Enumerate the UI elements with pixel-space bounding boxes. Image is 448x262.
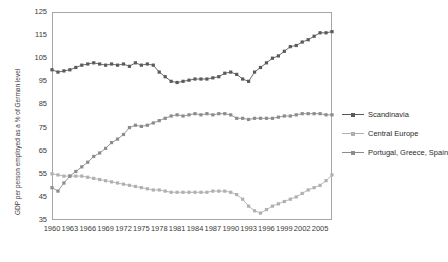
legend-swatch-icon bbox=[342, 148, 364, 157]
legend-swatch-icon bbox=[342, 129, 364, 138]
series-2 bbox=[50, 172, 333, 214]
chart-legend: ScandinaviaCentral EuropePortugal, Greec… bbox=[342, 110, 448, 167]
legend-item: Portugal, Greece, Spain bbox=[342, 148, 448, 157]
legend-label: Central Europe bbox=[368, 129, 418, 138]
legend-label: Scandinavia bbox=[368, 110, 409, 119]
legend-swatch-icon bbox=[342, 110, 364, 119]
legend-item: Scandinavia bbox=[342, 110, 448, 119]
series-3 bbox=[50, 112, 333, 193]
legend-label: Portugal, Greece, Spain bbox=[368, 148, 448, 157]
series-1 bbox=[50, 30, 333, 84]
legend-item: Central Europe bbox=[342, 129, 448, 138]
